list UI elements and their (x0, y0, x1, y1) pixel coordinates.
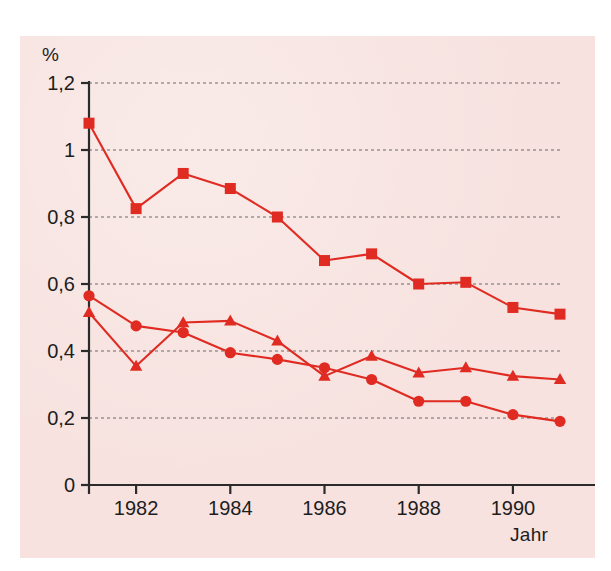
data-point-square (178, 168, 189, 179)
x-axis-tick-label: 1984 (208, 497, 253, 519)
data-point-square (507, 302, 518, 313)
x-axis-tick-label: 1986 (302, 497, 347, 519)
data-point-square (84, 118, 95, 129)
data-point-square (131, 203, 142, 214)
y-axis-tick-label: 1 (64, 139, 75, 161)
data-point-circle (460, 396, 471, 407)
chart-plot-area: 00,20,40,60,811,2 19821984198619881990 (0, 0, 611, 571)
chart-page: % Jahr 00,20,40,60,811,2 198219841986198… (0, 0, 611, 571)
data-point-square (555, 309, 566, 320)
data-series-group (83, 118, 566, 427)
x-axis-tick-label: 1982 (114, 497, 159, 519)
data-point-circle (225, 347, 236, 358)
series-line (89, 123, 560, 314)
series-square (84, 118, 566, 320)
x-axis-tick-label: 1990 (491, 497, 536, 519)
data-point-triangle (224, 314, 236, 325)
data-point-circle (413, 396, 424, 407)
series-triangle (83, 306, 566, 384)
series-circle (83, 290, 565, 427)
y-axis-tick-label: 0,2 (47, 407, 75, 429)
y-axis-tick-label: 0,6 (47, 273, 75, 295)
y-axis-tick-label: 1,2 (47, 72, 75, 94)
y-axis-tick-label: 0,4 (47, 340, 75, 362)
data-point-circle (178, 327, 189, 338)
data-point-circle (507, 409, 518, 420)
data-point-circle (366, 374, 377, 385)
y-axis-ticks-group (81, 83, 89, 485)
data-point-square (366, 248, 377, 259)
series-line (89, 296, 560, 422)
y-axis-tick-label: 0 (64, 474, 75, 496)
x-axis-tick-label: 1988 (396, 497, 441, 519)
data-point-square (225, 183, 236, 194)
y-axis-tick-label: 0,8 (47, 206, 75, 228)
data-point-triangle (460, 361, 472, 372)
x-axis-tick-labels-group: 19821984198619881990 (114, 497, 535, 519)
data-point-square (272, 212, 283, 223)
data-point-square (413, 279, 424, 290)
data-point-circle (131, 320, 142, 331)
x-axis-ticks-group (89, 485, 513, 494)
data-point-circle (83, 290, 94, 301)
y-axis-tick-labels-group: 00,20,40,60,811,2 (47, 72, 75, 496)
axes-group (87, 81, 595, 485)
data-point-square (319, 255, 330, 266)
data-point-triangle (83, 306, 95, 317)
data-point-circle (272, 354, 283, 365)
data-point-circle (554, 416, 565, 427)
data-point-square (460, 277, 471, 288)
